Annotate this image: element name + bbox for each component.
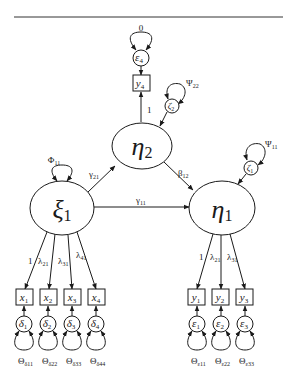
svg-text:Θδ33: Θδ33 bbox=[66, 356, 81, 367]
theta-delta33-loop bbox=[63, 331, 82, 350]
svg-text:λ21: λ21 bbox=[210, 252, 220, 263]
zeta1-block: Ψ11 ζ1 bbox=[238, 139, 277, 184]
svg-text:Φ11: Φ11 bbox=[48, 155, 60, 166]
theta-eps22-loop bbox=[212, 331, 231, 350]
svg-text:λ31: λ31 bbox=[58, 256, 68, 267]
svg-text:β12: β12 bbox=[178, 168, 189, 179]
theta-delta11-loop bbox=[15, 331, 34, 350]
svg-text:γ11: γ11 bbox=[135, 195, 146, 206]
theta-eps11-loop bbox=[188, 331, 207, 350]
theta-eps33-loop bbox=[236, 331, 255, 350]
svg-text:Ψ11: Ψ11 bbox=[265, 139, 277, 150]
zeta2-block: Ψ22 ζ2 bbox=[160, 78, 199, 126]
x2-loading-arrow bbox=[49, 234, 55, 289]
x1-loading-label: 1 bbox=[28, 256, 33, 266]
svg-text:Θδ22: Θδ22 bbox=[42, 356, 57, 367]
y1-loading-label: 1 bbox=[199, 252, 204, 262]
x-indicator-2: λ21 x2 δ2 Θδ22 bbox=[38, 234, 57, 367]
y-indicator-3: λ31 y3 ε3 Θε33 bbox=[227, 234, 254, 367]
svg-text:Θε33: Θε33 bbox=[239, 356, 254, 367]
eta2-symbol: η bbox=[132, 132, 145, 161]
svg-text:γ21: γ21 bbox=[88, 169, 99, 180]
x3-loading-arrow bbox=[68, 235, 72, 289]
eta1-symbol: η bbox=[212, 195, 225, 224]
svg-text:Θε11: Θε11 bbox=[191, 356, 206, 367]
zeta2-to-eta2-arrow bbox=[160, 112, 167, 126]
theta-delta22-loop bbox=[39, 331, 58, 350]
svg-text:Θδ44: Θδ44 bbox=[90, 356, 105, 367]
y4-loading-label: 1 bbox=[147, 105, 152, 115]
svg-text:λ21: λ21 bbox=[38, 256, 48, 267]
epsilon4-variance-loop bbox=[130, 32, 151, 50]
xi1-variance: Φ11 bbox=[48, 155, 72, 181]
eta2-indicator-block: 0 ε4 y4 1 bbox=[130, 23, 151, 122]
theta-delta44-loop bbox=[87, 331, 106, 350]
svg-text:λ41: λ41 bbox=[76, 250, 86, 261]
zeta1-to-eta1-arrow bbox=[238, 174, 246, 184]
svg-text:Θε22: Θε22 bbox=[215, 356, 230, 367]
epsilon4-variance-label: 0 bbox=[139, 23, 144, 33]
svg-text:Θδ11: Θδ11 bbox=[18, 356, 33, 367]
svg-text:Ψ22: Ψ22 bbox=[186, 78, 199, 89]
sem-path-diagram: 0 ε4 y4 1 Ψ22 ζ2 η2 Φ11 ξ1 γ21 γ11 β12 Ψ… bbox=[0, 0, 293, 389]
phi11-variance-loop bbox=[52, 165, 72, 181]
